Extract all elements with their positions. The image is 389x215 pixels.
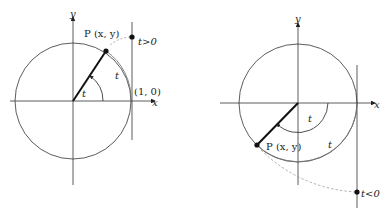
- y-axis-label: y: [294, 13, 301, 24]
- radius-segment: [73, 51, 106, 101]
- figure-svg: y x P (x, y) t>0 t t (1, 0) y x P (x, y)…: [0, 0, 389, 215]
- tangent-point-label: t<0: [361, 188, 380, 199]
- point-p: [103, 48, 108, 53]
- tangent-point: [129, 34, 134, 39]
- tangent-point-label: t>0: [138, 36, 157, 47]
- diagram-positive: y x P (x, y) t>0 t t (1, 0): [10, 8, 161, 185]
- angle-label: t: [308, 113, 313, 124]
- angle-arc: [90, 76, 103, 101]
- point-p: [254, 142, 259, 147]
- point-p-label: P (x, y): [266, 141, 301, 152]
- wrap-dashed-path: [261, 150, 355, 192]
- point-p-label: P (x, y): [84, 28, 119, 39]
- arc-label: t: [328, 139, 333, 150]
- angle-label: t: [82, 88, 87, 99]
- diagram-negative: y x P (x, y) t<0 t t: [220, 13, 380, 208]
- tangent-point: [354, 189, 359, 194]
- unit-circle-figure: y x P (x, y) t>0 t t (1, 0) y x P (x, y)…: [0, 0, 389, 215]
- x-axis-label: x: [152, 97, 158, 108]
- arc-t: [257, 103, 357, 162]
- y-axis-label: y: [69, 8, 76, 19]
- unit-point-label: (1, 0): [134, 86, 161, 97]
- x-axis-label: x: [374, 99, 380, 110]
- arc-label: t: [115, 70, 120, 81]
